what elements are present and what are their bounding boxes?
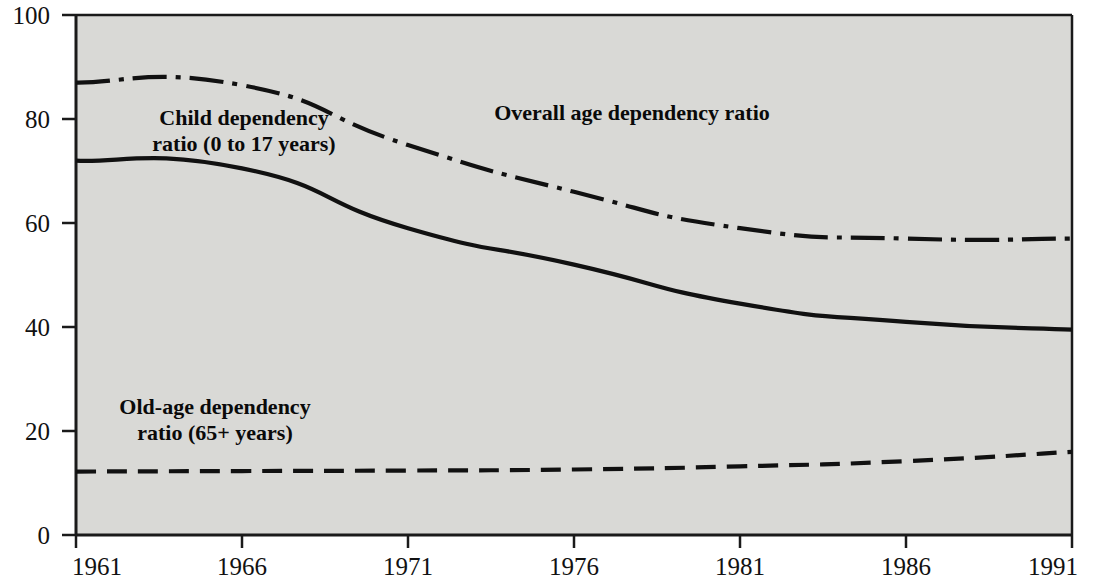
y-tick-label-40: 40 [25, 314, 50, 341]
annotation-line: Child dependency [159, 105, 328, 130]
x-axis-ticks [76, 535, 1072, 548]
y-axis-ticks [62, 15, 76, 535]
annotation-line: ratio (65+ years) [137, 420, 292, 445]
x-axis-tick-labels: 1961196619711976198119861991 [72, 553, 1078, 580]
annotation-line: Old-age dependency [119, 394, 310, 419]
y-tick-label-20: 20 [25, 418, 50, 445]
x-tick-label-1986: 1986 [881, 553, 931, 580]
annotation-line: Overall age dependency ratio [494, 100, 770, 125]
x-tick-label-1981: 1981 [715, 553, 765, 580]
annotation-child-label: Child dependencyratio (0 to 17 years) [152, 105, 335, 156]
chart-canvas: 020406080100 196119661971197619811986199… [0, 0, 1106, 581]
dependency-ratio-chart: 020406080100 196119661971197619811986199… [0, 0, 1106, 581]
x-tick-label-1991: 1991 [1028, 553, 1078, 580]
annotation-line: ratio (0 to 17 years) [152, 131, 335, 156]
x-tick-label-1971: 1971 [383, 553, 433, 580]
x-tick-label-1976: 1976 [549, 553, 599, 580]
annotation-overall-label: Overall age dependency ratio [494, 100, 770, 125]
y-tick-label-80: 80 [25, 106, 50, 133]
annotation-oldage-label: Old-age dependencyratio (65+ years) [119, 394, 310, 445]
x-tick-label-1961: 1961 [72, 553, 122, 580]
plot-area-background [76, 15, 1072, 535]
y-tick-label-100: 100 [13, 2, 51, 29]
y-tick-label-0: 0 [38, 522, 51, 549]
y-axis-tick-labels: 020406080100 [13, 2, 51, 549]
y-tick-label-60: 60 [25, 210, 50, 237]
x-tick-label-1966: 1966 [217, 553, 267, 580]
